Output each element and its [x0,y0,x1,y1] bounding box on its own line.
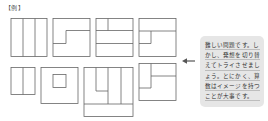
figure-a-three-strips [11,19,47,57]
figure-e-two-strips [11,68,35,95]
figure-b-stepped [53,19,90,57]
figure-g-columns [84,68,133,117]
callout-box: 難しい問題です。しかし、発想を切り替えてトライさせましょう。とにかく、算数はイメ… [200,36,264,107]
figure-h-step [139,64,176,101]
figure-f-inner-square [41,68,78,104]
figure-c-bands [96,19,133,57]
arrow-left-icon [182,58,195,63]
callout-text: 難しい問題です。しかし、発想を切り替えてトライさせましょう。とにかく、算数はイメ… [205,40,260,101]
figure-d-notch [139,19,176,57]
